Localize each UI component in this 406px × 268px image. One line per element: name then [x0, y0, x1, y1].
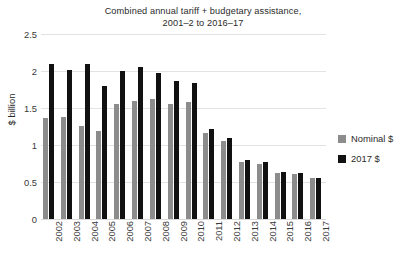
bar-real-2007 [138, 67, 143, 219]
bar-real-2006 [120, 71, 125, 219]
legend-item[interactable]: Nominal $ [338, 133, 404, 144]
bar-nominal-2017 [310, 178, 315, 219]
legend-item-label: Nominal $ [351, 133, 393, 144]
bar-group [273, 34, 291, 219]
chart-title: Combined annual tariff + budgetary assis… [0, 5, 406, 29]
bars-layer [41, 34, 326, 219]
legend-swatch-icon [338, 135, 346, 143]
x-axis-tick-label: 2008 [161, 221, 171, 261]
bar-real-2017 [316, 178, 321, 219]
bar-nominal-2012 [221, 141, 226, 219]
bar-nominal-2003 [61, 117, 66, 219]
bar-nominal-2013 [239, 162, 244, 219]
x-axis-tick-label: 2005 [107, 221, 117, 261]
bar-group [59, 34, 77, 219]
bar-nominal-2008 [150, 99, 155, 219]
bar-real-2012 [227, 138, 232, 219]
bar-real-2010 [192, 83, 197, 219]
bar-group [290, 34, 308, 219]
y-axis-tick-label: 2 [3, 66, 37, 77]
chart-legend: Nominal $2017 $ [338, 133, 404, 173]
y-axis-tick-label: 0.5 [3, 177, 37, 188]
bar-real-2016 [298, 173, 303, 219]
bar-group [166, 34, 184, 219]
bar-group [201, 34, 219, 219]
bar-group [308, 34, 326, 219]
x-axis-tick-label: 2015 [285, 221, 295, 261]
x-axis-tick-label: 2007 [143, 221, 153, 261]
x-axis-tick-label: 2013 [250, 221, 260, 261]
bar-real-2015 [281, 172, 286, 219]
bar-nominal-2014 [257, 164, 262, 220]
x-axis-tick-label: 2014 [268, 221, 278, 261]
y-axis-tick-label: 1 [3, 140, 37, 151]
bar-real-2002 [49, 64, 54, 219]
bar-nominal-2006 [114, 104, 119, 219]
bar-nominal-2011 [203, 133, 208, 219]
bar-nominal-2010 [186, 102, 191, 219]
bar-group [184, 34, 202, 219]
chart-title-line-1: Combined annual tariff + budgetary assis… [0, 5, 406, 17]
bar-group [41, 34, 59, 219]
chart-container: Combined annual tariff + budgetary assis… [0, 0, 406, 268]
y-axis-tick-label: 2.5 [3, 29, 37, 40]
bar-group [130, 34, 148, 219]
bar-real-2013 [245, 160, 250, 219]
bar-nominal-2015 [275, 173, 280, 219]
bar-nominal-2005 [96, 131, 101, 219]
bar-group [219, 34, 237, 219]
bar-real-2011 [209, 129, 214, 219]
bar-real-2004 [85, 64, 90, 219]
bar-group [148, 34, 166, 219]
y-axis-tick-label: 1.5 [3, 103, 37, 114]
x-axis-ticks: 2002200320042005200620072008200920102011… [41, 221, 326, 266]
bar-group [237, 34, 255, 219]
y-axis-ticks: 00.511.522.5 [0, 34, 37, 219]
y-axis-tick-label: 0 [3, 214, 37, 225]
x-axis-tick-label: 2009 [179, 221, 189, 261]
bar-group [112, 34, 130, 219]
chart-title-line-2: 2001–2 to 2016–17 [0, 17, 406, 29]
bar-nominal-2009 [168, 104, 173, 219]
x-axis-tick-label: 2003 [72, 221, 82, 261]
bar-group [255, 34, 273, 219]
bar-nominal-2002 [43, 118, 48, 219]
x-axis-tick-label: 2017 [321, 221, 331, 261]
legend-item-label: 2017 $ [351, 153, 380, 164]
bar-real-2008 [156, 73, 161, 219]
x-axis-tick-label: 2016 [303, 221, 313, 261]
x-axis-tick-label: 2004 [90, 221, 100, 261]
bar-group [94, 34, 112, 219]
x-axis-tick-label: 2010 [196, 221, 206, 261]
x-axis-tick-label: 2006 [125, 221, 135, 261]
legend-swatch-icon [338, 155, 346, 163]
bar-real-2009 [174, 81, 179, 219]
bar-nominal-2016 [292, 174, 297, 219]
x-axis-tick-label: 2002 [54, 221, 64, 261]
bar-real-2005 [102, 86, 107, 219]
bar-nominal-2004 [79, 126, 84, 219]
x-axis-baseline [41, 219, 326, 220]
bar-real-2003 [67, 70, 72, 219]
x-axis-tick-label: 2012 [232, 221, 242, 261]
bar-nominal-2007 [132, 101, 137, 219]
bar-real-2014 [263, 162, 268, 219]
x-axis-tick-label: 2011 [214, 221, 224, 261]
legend-item[interactable]: 2017 $ [338, 153, 404, 164]
bar-group [77, 34, 95, 219]
